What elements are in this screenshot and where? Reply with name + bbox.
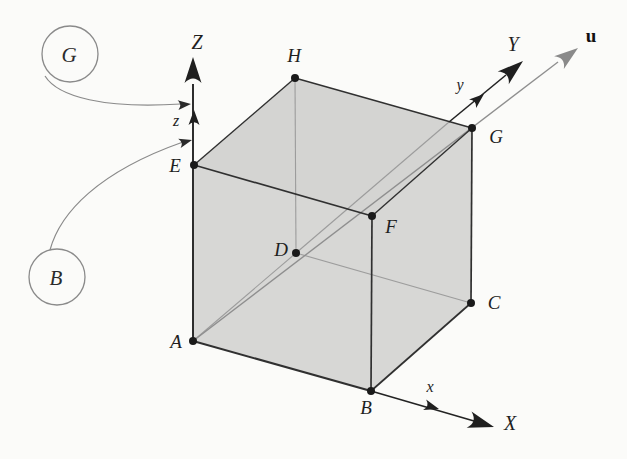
- edge-BF: [371, 216, 372, 391]
- edge-CG: [471, 128, 472, 303]
- vertex-label-H: H: [286, 45, 302, 66]
- vertex-dot-A: [189, 337, 197, 345]
- vertex-label-B: B: [360, 397, 372, 418]
- callout-B-leader-arrowhead-icon: [178, 135, 193, 148]
- vertex-label-A: A: [168, 331, 182, 352]
- vertex-dot-B: [367, 387, 375, 395]
- x-axis-arrowhead-icon: [467, 411, 497, 435]
- vertex-dot-C: [467, 299, 475, 307]
- axis-label-Y: Y: [507, 33, 520, 55]
- minor-axis-label-x: x: [425, 378, 433, 395]
- diagram-page: A B C D E F G H Z Y X z y x u G B: [0, 0, 627, 459]
- vertex-dot-E: [190, 161, 198, 169]
- x-axis-shaft: [371, 391, 474, 421]
- vertex-dot-F: [368, 212, 376, 220]
- y-axis-arrowhead-icon: [498, 55, 529, 85]
- z-axis-arrowhead-icon: [185, 57, 202, 83]
- vector-u-arrowhead-icon: [554, 42, 583, 69]
- callout-label-G: G: [61, 43, 76, 67]
- vertex-dot-H: [291, 74, 299, 82]
- callout-B-leader-line: [50, 142, 183, 250]
- cube-axes-figure: A B C D E F G H Z Y X z y x u G B: [0, 0, 627, 459]
- vertex-label-G: G: [489, 126, 503, 147]
- vertex-label-E: E: [168, 155, 181, 176]
- minor-axis-label-z: z: [172, 112, 180, 129]
- vertex-dot-D: [292, 249, 300, 257]
- vector-u-label: u: [586, 25, 597, 46]
- vertex-label-F: F: [384, 216, 397, 237]
- callout-label-B: B: [50, 266, 63, 290]
- vertex-dot-G: [468, 124, 476, 132]
- axis-label-X: X: [503, 412, 517, 434]
- axis-label-Z: Z: [191, 31, 203, 53]
- minor-axis-label-y: y: [454, 76, 464, 94]
- vertex-label-C: C: [488, 292, 501, 313]
- vertex-label-D: D: [273, 239, 288, 260]
- z-minor-arrowhead-icon: [189, 110, 200, 125]
